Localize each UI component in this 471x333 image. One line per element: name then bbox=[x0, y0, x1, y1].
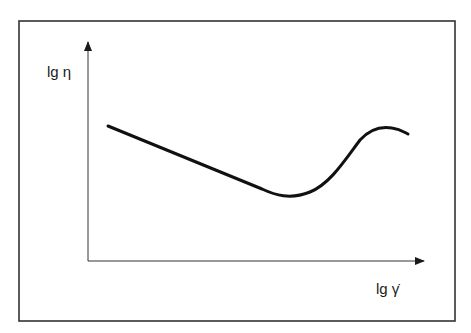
y-axis-label: lg η bbox=[47, 63, 71, 80]
x-axis-label: lg γ̇ bbox=[376, 280, 400, 297]
frame bbox=[19, 21, 455, 321]
diagram: lg η lg γ̇ bbox=[0, 0, 471, 333]
viscosity-curve bbox=[108, 126, 408, 196]
